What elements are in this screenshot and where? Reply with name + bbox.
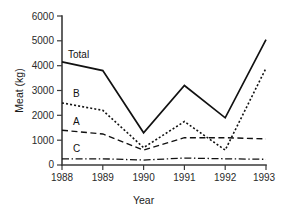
y-tick-label-6000: 6000 — [32, 11, 55, 22]
series-line-total — [62, 40, 266, 133]
series-label-b: B — [73, 88, 80, 99]
x-tick-label-1989: 1989 — [92, 172, 115, 183]
x-tick-label-1990: 1990 — [132, 172, 155, 183]
series-label-total: Total — [68, 49, 89, 60]
x-tick-label-1992: 1992 — [214, 172, 237, 183]
line-chart: 6000 5000 4000 3000 2000 1000 0 — [0, 0, 287, 213]
chart-container: 6000 5000 4000 3000 2000 1000 0 — [0, 0, 287, 213]
series-label-a: A — [73, 116, 80, 127]
y-tick-label-1000: 1000 — [32, 135, 55, 146]
x-axis-tick-labels: 1988 1989 1990 1991 1992 1993 — [51, 172, 276, 183]
y-tick-label-5000: 5000 — [32, 35, 55, 46]
y-tick-label-4000: 4000 — [32, 60, 55, 71]
x-tick-label-1993: 1993 — [253, 172, 276, 183]
x-tick-label-1991: 1991 — [173, 172, 196, 183]
x-axis-title: Year — [133, 194, 155, 206]
series-label-c: C — [73, 143, 80, 154]
y-axis-title: Meat (kg) — [13, 68, 25, 112]
x-tick-label-1988: 1988 — [51, 172, 74, 183]
y-tick-label-0: 0 — [48, 159, 54, 170]
y-tick-label-2000: 2000 — [32, 110, 55, 121]
series-line-c — [62, 158, 266, 160]
y-axis-tick-labels: 6000 5000 4000 3000 2000 1000 0 — [32, 11, 55, 171]
series-lines — [62, 40, 266, 160]
series-line-a — [62, 130, 266, 150]
y-tick-label-3000: 3000 — [32, 85, 55, 96]
